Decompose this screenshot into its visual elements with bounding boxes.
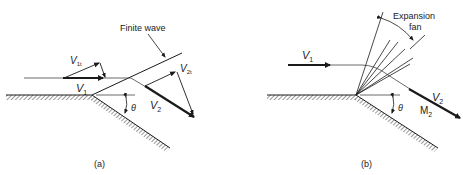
v2-label-b: V2 — [432, 91, 443, 105]
m2-label-b: M2 — [420, 105, 432, 118]
v2t-label: V2t — [180, 63, 192, 75]
theta-arc-b — [392, 97, 394, 113]
expansion-fan-lines — [356, 12, 413, 95]
streamline-a-downstream — [131, 78, 146, 87]
fan-boundary-tick — [410, 35, 425, 49]
expansion-fan-label-line1: Expansion — [393, 11, 435, 21]
v2t-vector — [145, 72, 175, 86]
v1-label-b: V1 — [302, 49, 313, 63]
wall-b — [267, 95, 438, 152]
finite-wave-label: Finite wave — [120, 23, 166, 33]
finite-wave-leader — [148, 34, 165, 57]
theta-arc-a — [125, 97, 127, 113]
theta-label-a: θ — [131, 103, 136, 113]
panel-b: V1 V2 M2 Expansion fan θ (b) — [267, 11, 460, 169]
v2-label-a: V2 — [150, 99, 161, 113]
expansion-wave-diagram: Finite wave V1 V1t V2 V2t θ (a) — [0, 0, 463, 175]
expansion-fan-label-line2: fan — [409, 22, 422, 32]
caption-b: (b) — [361, 159, 372, 169]
v1-label-a: V1 — [76, 82, 87, 96]
theta-label-b: θ — [398, 103, 403, 113]
panel-a: Finite wave V1 V1t V2 V2t θ (a) — [6, 23, 194, 169]
v1-normal-component — [100, 63, 105, 77]
finite-wave-line — [92, 53, 182, 95]
wall-a — [6, 95, 170, 152]
caption-a: (a) — [94, 159, 105, 169]
v1t-label: V1t — [70, 55, 82, 67]
